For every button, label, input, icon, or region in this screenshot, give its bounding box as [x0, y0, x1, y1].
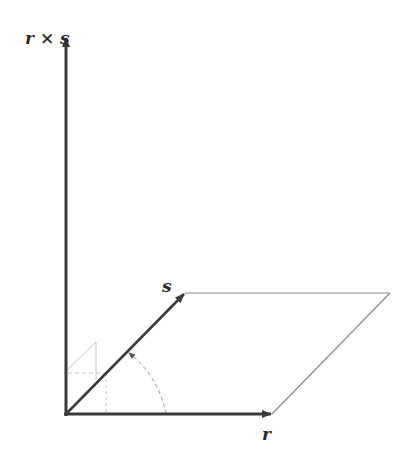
angle-arc — [129, 353, 166, 414]
cross-product-diagram: r × s s r — [0, 0, 410, 457]
label-s: s — [161, 276, 172, 296]
parallelogram — [185, 293, 390, 414]
label-r-cross-s: r × s — [25, 28, 70, 48]
label-r: r — [262, 424, 272, 444]
